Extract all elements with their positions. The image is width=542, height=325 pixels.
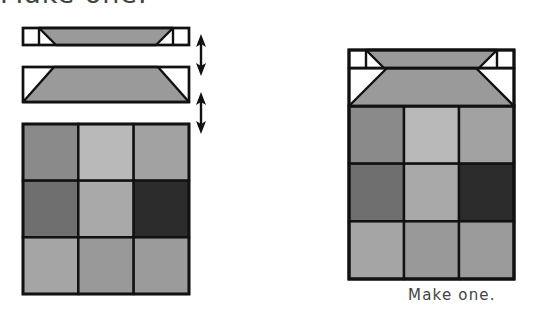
- join-arrow-1-icon: [196, 34, 206, 76]
- quilt-block-diagram: [0, 0, 542, 325]
- grid-cell-r1-c1: [23, 124, 78, 181]
- grid-cell-r1-c3: [134, 124, 189, 181]
- grid-cell-r3-c2: [404, 221, 459, 279]
- grid-cell-r3-c1: [23, 237, 78, 294]
- grid-cell-r2-c2: [404, 164, 459, 222]
- finished-block: [349, 50, 514, 279]
- finished-nine-patch-grid: [349, 106, 514, 279]
- finished-top-flying-geese-strip: [349, 50, 514, 68]
- exploded-block-assembly: [23, 28, 206, 294]
- top-flying-geese-strip: [23, 28, 189, 45]
- grid-cell-r3-c3: [134, 237, 189, 294]
- grid-cell-r3-c3: [459, 221, 514, 279]
- make-one-caption: Make one.: [408, 286, 496, 304]
- finished-middle-trapezoid-strip: [349, 68, 514, 106]
- join-arrow-2-icon: [196, 92, 206, 134]
- grid-cell-r2-c3: [134, 181, 189, 238]
- grid-cell-r2-c1: [23, 181, 78, 238]
- trapezoid-patch: [39, 28, 173, 45]
- grid-cell-r2-c3: [459, 164, 514, 222]
- grid-cell-r2-c1: [349, 164, 404, 222]
- grid-cell-r1-c3: [459, 106, 514, 164]
- trapezoid-patch: [366, 50, 497, 68]
- nine-patch-grid: [23, 124, 189, 294]
- middle-trapezoid-strip: [23, 67, 189, 102]
- trapezoid-patch: [23, 67, 189, 102]
- grid-cell-r1-c2: [78, 124, 133, 181]
- grid-cell-r2-c2: [78, 181, 133, 238]
- grid-cell-r3-c1: [349, 221, 404, 279]
- grid-cell-r1-c1: [349, 106, 404, 164]
- grid-cell-r3-c2: [78, 237, 133, 294]
- grid-cell-r1-c2: [404, 106, 459, 164]
